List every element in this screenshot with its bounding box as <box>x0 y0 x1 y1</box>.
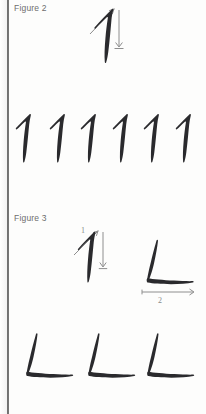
practice-glyph-L-c <box>147 333 194 377</box>
page-gutter-line <box>7 0 9 414</box>
practice-glyph-L-b <box>88 333 135 377</box>
practice-glyph-1-d <box>113 114 128 162</box>
stroke-direction-arrow-down <box>115 10 124 49</box>
practice-glyph-1-c <box>81 114 96 162</box>
scanned-page: Figure 2 <box>0 0 206 414</box>
figure-3-stroke-diagram-2 <box>133 238 201 300</box>
practice-glyph-1-a <box>16 114 31 162</box>
figure-3-stroke-diagram-1 <box>72 225 120 297</box>
glyph-ink-1 <box>94 9 113 63</box>
glyph-ink-L <box>147 240 194 284</box>
glyph-ink-1 <box>78 232 96 283</box>
figure-2-label: Figure 2 <box>14 3 47 13</box>
practice-glyph-1-e <box>144 114 159 162</box>
page-gutter-shadow <box>0 0 7 414</box>
practice-glyph-1-b <box>50 114 65 162</box>
practice-glyph-1-f <box>176 114 191 162</box>
stroke-direction-arrow-down <box>99 232 107 269</box>
figure-2-stroke-diagram-1 <box>88 2 138 74</box>
practice-glyph-L-a <box>26 333 73 377</box>
stroke-direction-arrow-right <box>142 289 194 295</box>
figure-2-practice-row <box>12 112 202 178</box>
figure-3-label: Figure 3 <box>14 213 47 223</box>
figure-3-practice-row <box>14 330 202 404</box>
stroke-number-label-1: 1 <box>81 226 85 235</box>
stroke-number-label-2: 2 <box>158 296 162 305</box>
